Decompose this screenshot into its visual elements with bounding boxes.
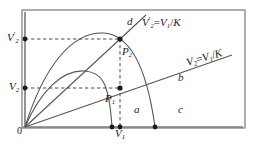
marker-curve-a-foot bbox=[110, 125, 115, 130]
line-label-d: d bbox=[127, 16, 133, 27]
point-label-p1: P1 bbox=[105, 93, 115, 104]
marker-p1 bbox=[117, 85, 122, 90]
curve-label-c: c bbox=[178, 104, 183, 115]
marker-v2-axis bbox=[23, 86, 28, 91]
x-axis-tick-label-v1: V1 bbox=[115, 128, 125, 139]
y-axis-tick-label-v2-prime: V′2 bbox=[7, 32, 19, 43]
marker-curve-c-foot bbox=[153, 125, 158, 130]
line-shallow-b bbox=[25, 55, 232, 127]
curve-label-a: a bbox=[134, 104, 140, 115]
line-label-b: b bbox=[178, 72, 184, 83]
y-axis-tick-label-v2: V2 bbox=[9, 81, 19, 92]
marker-p2 bbox=[117, 36, 122, 41]
equation-steep-line: V′2=V1/K bbox=[142, 17, 181, 28]
origin-label: 0 bbox=[17, 126, 22, 136]
point-label-p2: P2 bbox=[122, 46, 132, 57]
marker-v2prime-axis bbox=[23, 37, 28, 42]
figure-container: V′2 V2 0 V1 P2 P1 a b c d V′2=V1/K V2=V1… bbox=[0, 0, 265, 145]
curve-inner-a bbox=[25, 71, 112, 127]
line-steep-d bbox=[25, 15, 146, 127]
